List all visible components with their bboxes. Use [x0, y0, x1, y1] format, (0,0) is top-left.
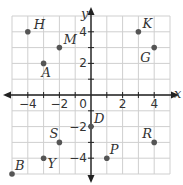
point-dot	[136, 29, 142, 35]
point-dot	[25, 29, 31, 35]
point-label: K	[141, 16, 153, 31]
x-tick-label: 2	[119, 97, 127, 111]
point-label: R	[141, 126, 152, 141]
y-tick-label: −4	[69, 151, 87, 165]
y-tick-label: 4	[79, 25, 87, 39]
point-label: Y	[48, 156, 58, 171]
y-axis-down-arrow-icon	[88, 175, 95, 183]
point-dot	[9, 171, 15, 177]
point-label: B	[14, 158, 25, 173]
x-axis-label: x	[174, 86, 182, 101]
x-tick-label: −2	[51, 97, 69, 111]
point-label: G	[140, 50, 150, 65]
point-label: D	[93, 111, 105, 126]
origin-label: 0	[79, 97, 87, 111]
y-tick-label: −2	[69, 120, 87, 134]
coordinate-plane: −4−22442−2−40xy HMAKGDSRYPB	[0, 0, 183, 185]
point-label: S	[49, 126, 58, 141]
point-dot	[41, 155, 47, 161]
x-tick-label: −4	[19, 97, 37, 111]
point-dot	[104, 155, 110, 161]
x-axis-left-arrow-icon	[3, 92, 11, 99]
point-label: P	[109, 142, 119, 157]
point-dot	[151, 45, 157, 51]
point-label: M	[62, 32, 77, 47]
y-tick-label: 2	[79, 56, 87, 70]
y-axis-up-arrow-icon	[88, 7, 95, 15]
x-tick-label: 4	[150, 97, 158, 111]
point-label: A	[41, 65, 51, 80]
point-label: H	[33, 17, 46, 32]
y-axis-label: y	[80, 6, 89, 21]
point-dot	[151, 140, 157, 146]
point-dot	[88, 124, 94, 130]
point-dot	[57, 45, 63, 51]
